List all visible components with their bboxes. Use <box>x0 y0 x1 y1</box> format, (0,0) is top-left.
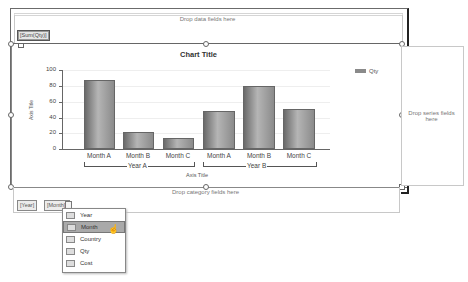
y-tick-label: 0 <box>34 145 56 151</box>
x-category-label: Month B <box>239 152 279 159</box>
year-category-field-button[interactable]: [Year] <box>17 200 37 211</box>
resize-handle-middle-left[interactable] <box>8 112 14 118</box>
field-icon <box>66 236 75 243</box>
menu-item-label: Cost <box>80 260 92 266</box>
y-axis[interactable] <box>62 70 63 150</box>
category-drop-zone-label: Drop category fields here <box>13 189 398 195</box>
y-tick-label: 60 <box>34 98 56 104</box>
resize-handle-top-center[interactable] <box>203 41 209 47</box>
data-drop-zone-label: Drop data fields here <box>14 16 401 22</box>
x-category-label: Month A <box>79 152 119 159</box>
legend-label-qty: Qty <box>369 68 378 74</box>
y-tick-mark <box>59 118 62 119</box>
x-category-label: Month B <box>118 152 158 159</box>
y-tick-label: 100 <box>34 66 56 72</box>
x-axis[interactable] <box>62 149 330 150</box>
bar-year-b-month-a[interactable] <box>203 111 235 149</box>
field-icon <box>66 248 75 255</box>
y-tick-mark <box>59 86 62 87</box>
field-icon <box>66 212 75 219</box>
menu-item-label: Year <box>80 212 92 218</box>
menu-item-label: Country <box>80 236 101 242</box>
x-category-label: Month C <box>279 152 319 159</box>
y-tick-mark <box>59 70 62 71</box>
y-axis-title[interactable]: Axis Title <box>28 100 34 120</box>
y-tick-mark <box>59 133 62 134</box>
corner-marker <box>401 186 409 194</box>
menu-item-month[interactable]: Month ☝ <box>63 221 125 233</box>
chart-legend[interactable]: Qty <box>355 68 378 74</box>
menu-item-qty[interactable]: Qty <box>63 245 125 257</box>
resize-handle-top-left[interactable] <box>8 41 14 47</box>
field-icon <box>67 224 76 231</box>
bar-year-a-month-b[interactable] <box>123 132 154 149</box>
menu-item-year[interactable]: Year <box>63 209 125 221</box>
series-drop-zone-label: Drop series fields here <box>403 110 460 122</box>
move-handle-icon[interactable] <box>18 43 24 48</box>
x-axis-title[interactable]: Axis Title <box>186 172 208 178</box>
x-category-label: Month C <box>158 152 198 159</box>
bar-year-b-month-b[interactable] <box>243 86 275 149</box>
menu-item-label: Month <box>81 224 98 230</box>
y-tick-mark <box>59 149 62 150</box>
gridline <box>63 70 330 71</box>
legend-swatch-qty <box>355 69 366 73</box>
y-tick-label: 20 <box>34 129 56 135</box>
menu-item-country[interactable]: Country <box>63 233 125 245</box>
field-icon <box>66 260 75 267</box>
y-tick-label: 40 <box>34 114 56 120</box>
group-label-year-b: Year B <box>246 162 267 169</box>
x-category-label: Month A <box>199 152 239 159</box>
menu-item-label: Qty <box>80 248 89 254</box>
chart-title[interactable]: Chart Title <box>180 50 217 59</box>
y-tick-mark <box>59 102 62 103</box>
y-tick-label: 80 <box>34 82 56 88</box>
menu-item-cost[interactable]: Cost <box>63 257 125 269</box>
field-dropdown-menu: Year Month ☝ Country Qty Cost <box>62 208 126 273</box>
bar-year-b-month-c[interactable] <box>283 109 315 149</box>
group-label-year-a: Year A <box>127 162 148 169</box>
bar-year-a-month-c[interactable] <box>163 138 194 149</box>
bar-year-a-month-a[interactable] <box>84 80 115 149</box>
sum-qty-field-button[interactable]: [Sum(Qty)] <box>17 30 50 41</box>
